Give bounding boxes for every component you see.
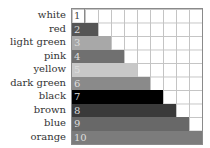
bar-row: 10 xyxy=(72,131,202,145)
bar-row: 2 xyxy=(72,23,202,37)
bar-number: 8 xyxy=(74,104,80,118)
bar-number: 4 xyxy=(74,50,80,64)
bar-row: 8 xyxy=(72,104,202,118)
bar-row: 6 xyxy=(72,77,202,91)
category-label: black xyxy=(0,89,66,103)
bar-row: 9 xyxy=(72,117,202,131)
category-label: brown xyxy=(0,103,66,117)
bar xyxy=(72,63,137,77)
category-label: orange xyxy=(0,130,66,144)
bar xyxy=(72,104,176,118)
bar-number: 3 xyxy=(74,36,80,50)
bar-number: 10 xyxy=(74,131,87,145)
category-label: light green xyxy=(0,35,66,49)
bar-number: 6 xyxy=(74,77,80,91)
category-label: pink xyxy=(0,49,66,63)
category-label: dark green xyxy=(0,76,66,90)
bar-row: 5 xyxy=(72,63,202,77)
category-label: yellow xyxy=(0,62,66,76)
category-label: blue xyxy=(0,116,66,130)
bar xyxy=(72,131,202,145)
bar-number: 2 xyxy=(74,23,80,37)
bar-number: 1 xyxy=(74,9,80,23)
bar-row: 1 xyxy=(72,9,202,23)
bar xyxy=(72,117,189,131)
bar-row: 7 xyxy=(72,90,202,104)
bar-number: 7 xyxy=(74,90,80,104)
category-label: white xyxy=(0,8,66,22)
category-labels: white red light green pink yellow dark g… xyxy=(0,8,66,143)
category-label: red xyxy=(0,22,66,36)
bar xyxy=(72,90,163,104)
bar-row: 3 xyxy=(72,36,202,50)
bar xyxy=(72,77,150,91)
bar-number: 9 xyxy=(74,117,80,131)
bar-row: 4 xyxy=(72,50,202,64)
bar-grid: 12345678910 xyxy=(71,8,203,145)
bar-number: 5 xyxy=(74,63,80,77)
